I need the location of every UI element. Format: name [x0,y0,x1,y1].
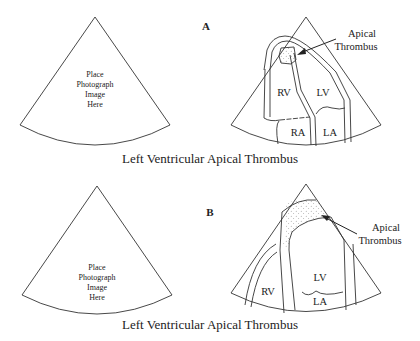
mitral-plane [316,107,345,114]
schematic-diagram-b: Apical Thrombus RV LV LA [231,184,402,313]
figure-caption-a: Left Ventricular Apical Thrombus [122,151,298,166]
annotation-line-1: Apical [348,28,376,39]
arrow-head-icon [297,48,306,55]
figure-canvas: A Place Photograph Image Here [0,0,420,341]
chamber-label-ra: RA [291,127,306,138]
chamber-label-lv: LV [316,87,329,98]
septum-rv-side [280,212,284,313]
placeholder-line-1: Place [86,70,104,79]
placeholder-line-2: Photograph [79,273,116,282]
placeholder-line-4: Here [87,100,103,109]
thrombus-arrow-line [324,217,357,234]
chamber-label-la: LA [313,296,327,307]
panel-b: B Place Photograph Image Here Apic [22,184,402,332]
schematic-diagram-a: Apical Thrombus RV LV RA LA [231,17,381,146]
placeholder-line-4: Here [89,293,105,302]
placeholder-line-2: Photograph [77,80,114,89]
lv-endocardium-lateral [331,217,346,310]
chamber-label-rv: RV [277,87,291,98]
photo-placeholder-cone-b: Place Photograph Image Here [22,186,172,314]
annotation-line-2: Thrombus [334,41,377,52]
ra-wall [277,121,279,144]
panel-a: A Place Photograph Image Here [20,17,381,166]
tricuspid-plane [280,117,310,120]
rv-free-wall-outer [251,252,277,307]
placeholder-line-3: Image [87,283,107,292]
apical-thrombus-mass [279,47,296,64]
chamber-label-rv: RV [261,286,275,297]
photo-placeholder-cone-a: Place Photograph Image Here [20,17,170,145]
placeholder-line-1: Place [88,263,106,272]
figure-caption-b: Left Ventricular Apical Thrombus [122,317,298,332]
lv-epicardium-lateral [353,244,356,305]
annotation-line-2: Thrombus [358,235,401,246]
placeholder-line-3: Image [85,90,105,99]
panel-label-b: B [206,206,214,218]
panel-label-a: A [202,20,210,32]
mitral-valve [302,291,343,295]
chamber-label-lv: LV [313,272,326,283]
annotation-line-1: Apical [372,222,400,233]
chamber-label-la: LA [323,127,337,138]
